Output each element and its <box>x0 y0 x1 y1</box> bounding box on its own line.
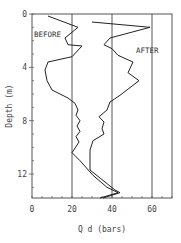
plot-border <box>32 14 172 198</box>
plot-frame <box>32 14 172 198</box>
y-tick-label: 12 <box>17 170 27 179</box>
series-before-line <box>45 16 118 198</box>
x-axis-label: Q d (bars) <box>78 225 126 234</box>
x-tick-label: 40 <box>107 205 117 214</box>
annotation-after: AFTER <box>136 46 159 55</box>
annotation-before: BEFORE <box>34 30 62 39</box>
x-tick-label: 20 <box>67 205 77 214</box>
x-axis-ticks: 0204060 <box>30 196 172 214</box>
annotations: BEFOREAFTER <box>34 30 159 55</box>
y-tick-label: 4 <box>22 63 27 72</box>
y-tick-label: 8 <box>22 117 27 126</box>
y-tick-label: 0 <box>22 10 27 19</box>
y-axis-label: Depth (m) <box>5 84 14 127</box>
x-tick-label: 60 <box>147 205 157 214</box>
data-series <box>45 16 150 198</box>
x-tick-label: 0 <box>30 205 35 214</box>
depth-profile-chart: 0204060 04812 BEFOREAFTER Q d (bars) Dep… <box>0 0 181 243</box>
reference-lines <box>72 14 152 198</box>
